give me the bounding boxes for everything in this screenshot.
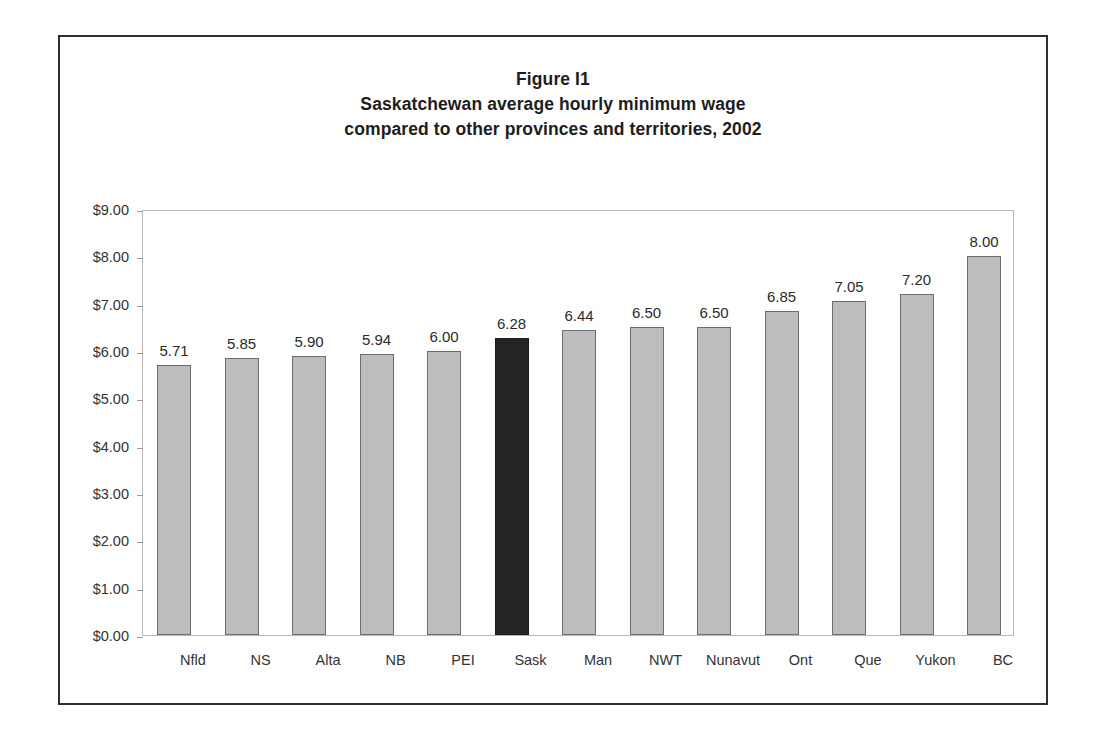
bar-value-label: 6.28 [483,315,541,332]
bar-value-label: 8.00 [955,233,1013,250]
y-axis-tick-label: $1.00 [93,581,129,597]
y-axis-tick-label: $4.00 [93,439,129,455]
y-axis-tick-mark [137,306,143,307]
bar-value-label: 6.44 [550,307,608,324]
bar[interactable] [562,330,596,635]
bar-slot: 7.20 [900,209,934,635]
bar-slot: 7.05 [832,209,866,635]
bar[interactable] [832,301,866,635]
bar-value-label: 6.85 [753,288,811,305]
x-axis-category-label: Man [561,652,635,668]
y-axis-tick-label: $8.00 [93,249,129,265]
x-axis-category-label: PEI [426,652,500,668]
x-axis-category-label: Sask [494,652,568,668]
bar[interactable] [427,351,461,635]
y-axis-tick-label: $5.00 [93,391,129,407]
y-axis-tick-mark [137,448,143,449]
x-axis: NfldNSAltaNBPEISaskManNWTNunavutOntQueYu… [142,636,1014,676]
y-axis-tick-mark [137,211,143,212]
bar-slot: 6.28 [495,209,529,635]
bar[interactable] [765,311,799,635]
bar[interactable] [360,354,394,635]
bar-slot: 5.90 [292,209,326,635]
bar-value-label: 6.00 [415,328,473,345]
y-axis-tick-label: $9.00 [93,202,129,218]
bar-value-label: 5.85 [213,335,271,352]
x-axis-category-label: Ont [764,652,838,668]
bar-slot: 6.50 [697,209,731,635]
bar-slot: 5.85 [225,209,259,635]
bar-slot: 5.71 [157,209,191,635]
plot-area: $9.00$8.00$7.00$6.00$5.00$4.00$3.00$2.00… [142,210,1014,636]
bar[interactable] [292,356,326,635]
bar-value-label: 6.50 [618,304,676,321]
bar-value-label: 5.90 [280,333,338,350]
chart-title-line-3: compared to other provinces and territor… [60,117,1046,142]
y-axis-tick-mark [137,353,143,354]
y-axis-tick-mark [137,400,143,401]
chart-title-line-2: Saskatchewan average hourly minimum wage [60,92,1046,117]
bar[interactable] [967,256,1001,635]
bar-slot: 5.94 [360,209,394,635]
y-axis-tick-mark [137,590,143,591]
plot-wrapper: $9.00$8.00$7.00$6.00$5.00$4.00$3.00$2.00… [142,210,1014,636]
bar[interactable] [225,358,259,635]
x-axis-category-label: NB [359,652,433,668]
figure-frame: Figure I1 Saskatchewan average hourly mi… [58,35,1048,705]
y-axis-tick-label: $6.00 [93,344,129,360]
x-axis-category-label: Nunavut [696,652,770,668]
bar-slot: 6.85 [765,209,799,635]
chart-title: Figure I1 Saskatchewan average hourly mi… [60,67,1046,142]
bar-value-label: 5.71 [145,342,203,359]
bar-slot: 6.00 [427,209,461,635]
bar-slot: 6.50 [630,209,664,635]
bar-value-label: 7.20 [888,271,946,288]
bar[interactable] [900,294,934,635]
bar-value-label: 5.94 [348,331,406,348]
y-axis-tick-label: $7.00 [93,297,129,313]
x-axis-category-label: Que [831,652,905,668]
x-axis-category-label: Nfld [156,652,230,668]
chart-title-line-1: Figure I1 [60,67,1046,92]
bar-value-label: 7.05 [820,278,878,295]
y-axis-tick-label: $3.00 [93,486,129,502]
x-axis-category-label: Alta [291,652,365,668]
y-axis-tick-mark [137,542,143,543]
y-axis-tick-label: $2.00 [93,533,129,549]
x-axis-category-label: BC [966,652,1040,668]
bar[interactable] [697,327,731,635]
bar-highlighted[interactable] [495,338,529,635]
x-axis-category-label: NS [224,652,298,668]
y-axis-tick-mark [137,258,143,259]
y-axis-tick-mark [137,495,143,496]
bar-slot: 6.44 [562,209,596,635]
x-axis-category-label: NWT [629,652,703,668]
bar-slot: 8.00 [967,209,1001,635]
bar[interactable] [630,327,664,635]
y-axis-tick-label: $0.00 [93,628,129,644]
bar-value-label: 6.50 [685,304,743,321]
bar[interactable] [157,365,191,635]
x-axis-category-label: Yukon [899,652,973,668]
